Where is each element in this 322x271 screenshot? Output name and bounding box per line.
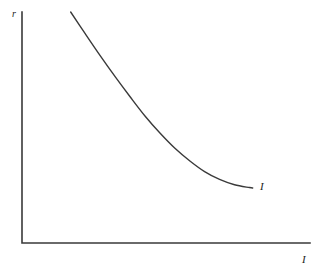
axes-group	[22, 12, 310, 243]
x-axis-label: I	[302, 254, 306, 265]
investment-demand-curve	[71, 12, 253, 188]
axis-lines	[22, 12, 310, 243]
figure-container: r I I	[0, 0, 322, 271]
plot-area	[0, 0, 322, 271]
curve-group	[71, 12, 253, 188]
curve-label: I	[260, 181, 264, 192]
y-axis-label: r	[12, 9, 16, 19]
